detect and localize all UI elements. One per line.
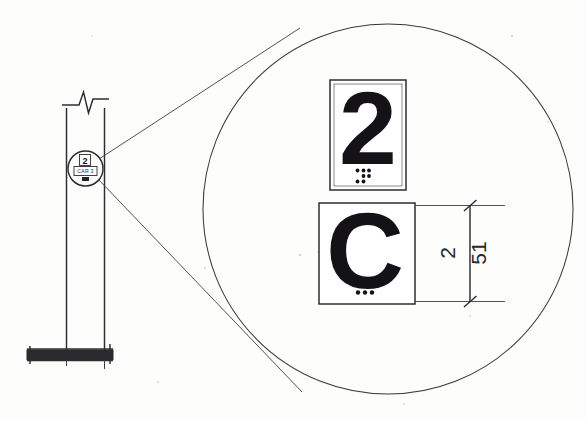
post-elevation-group: 2 CAR 3 bbox=[27, 92, 113, 369]
callout-tag-label: CAR 3 bbox=[77, 168, 93, 174]
break-line-icon bbox=[62, 92, 109, 113]
detail-leader-lines bbox=[99, 28, 302, 392]
plate-height-dimension: 2 51 bbox=[415, 200, 505, 307]
plate-car-letter[interactable]: C bbox=[319, 190, 415, 311]
mini-braille-mark bbox=[82, 177, 89, 181]
sign-post bbox=[67, 108, 105, 360]
dimension-metric-value: 51 bbox=[467, 241, 490, 264]
plate-floor-number-glyph: 2 bbox=[339, 70, 397, 186]
ground-slab bbox=[27, 344, 113, 369]
detail-callout-circle[interactable]: 2 CAR 3 bbox=[68, 151, 103, 186]
drawing-canvas: 2 CAR 3 2 bbox=[0, 0, 586, 422]
mini-plate-number-glyph: 2 bbox=[82, 156, 87, 166]
dimension-imperial-value: 2 bbox=[436, 247, 459, 259]
drawing-sheet: 2 CAR 3 2 bbox=[0, 0, 586, 422]
plate-floor-number[interactable]: 2 bbox=[330, 70, 406, 190]
braille-cell-c bbox=[356, 290, 374, 294]
